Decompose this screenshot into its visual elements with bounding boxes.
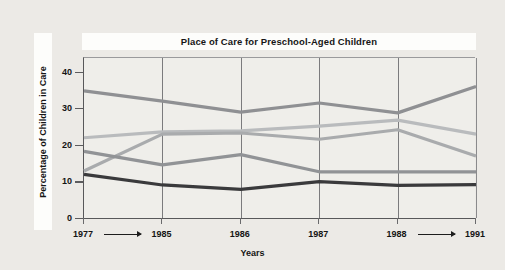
line-series-5-other-arrangements xyxy=(84,174,476,189)
range-arrow-icon xyxy=(104,234,141,235)
plot-area xyxy=(83,57,475,218)
x-axis-title: Years xyxy=(0,248,505,258)
chart-title-band: Place of Care for Preschool-Aged Childre… xyxy=(82,33,476,50)
y-tick-label: 20 xyxy=(12,140,72,150)
y-tick-label: 10 xyxy=(12,176,72,186)
x-tick-label: 1987 xyxy=(308,229,328,239)
y-tick-mark xyxy=(75,108,83,109)
x-tick-label: 1988 xyxy=(387,229,407,239)
x-tick-mark xyxy=(83,218,84,224)
line-series-3-organized-child-care-facility xyxy=(84,130,476,171)
y-axis-tick-labels: 010203040 xyxy=(6,0,72,270)
range-arrow-icon xyxy=(418,234,455,235)
line-series-4-care-by-parent xyxy=(84,151,476,171)
x-tick-label: 1991 xyxy=(465,229,485,239)
chart-title: Place of Care for Preschool-Aged Childre… xyxy=(181,36,377,47)
y-tick-label: 30 xyxy=(12,103,72,113)
series-lines xyxy=(84,58,476,219)
y-tick-mark xyxy=(75,181,83,182)
y-tick-mark xyxy=(75,72,83,73)
line-series-1-care-in-childs-home xyxy=(84,87,476,113)
y-tick-mark xyxy=(75,145,83,146)
x-axis-line xyxy=(83,218,475,219)
x-tick-mark xyxy=(161,218,162,224)
chart-figure: Place of Care for Preschool-Aged Childre… xyxy=(0,0,505,270)
x-tick-mark xyxy=(397,218,398,224)
x-tick-label: 1986 xyxy=(230,229,250,239)
x-tick-mark xyxy=(475,218,476,224)
gridline-1991 xyxy=(476,58,477,218)
y-tick-label: 0 xyxy=(12,213,72,223)
x-tick-label: 1985 xyxy=(151,229,171,239)
y-tick-mark xyxy=(75,218,83,219)
x-tick-label: 1977 xyxy=(73,229,93,239)
x-tick-mark xyxy=(318,218,319,224)
x-tick-mark xyxy=(240,218,241,224)
y-tick-label: 40 xyxy=(12,67,72,77)
